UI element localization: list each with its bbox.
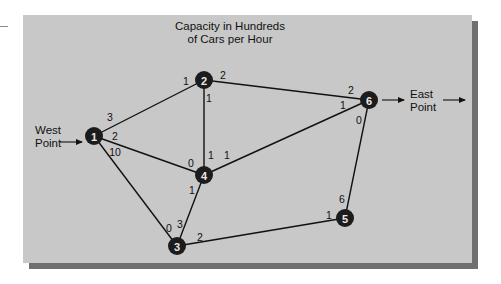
capacity-label: 0 — [188, 157, 194, 169]
capacity-label: 1 — [340, 99, 346, 111]
node-label: 3 — [174, 241, 180, 253]
capacity-label: 1 — [326, 209, 332, 221]
edge-2-6 — [204, 80, 369, 100]
capacity-label: 2 — [197, 231, 203, 243]
node-5: 5 — [336, 209, 354, 227]
capacity-label: 2 — [220, 69, 226, 81]
capacity-label: 6 — [339, 193, 345, 205]
edge-1-2 — [94, 80, 204, 136]
node-6: 6 — [360, 91, 378, 109]
node-1: 1 — [85, 127, 103, 145]
node-label: 2 — [201, 75, 207, 87]
capacity-label: 2 — [348, 84, 354, 96]
node-2: 2 — [195, 71, 213, 89]
edge-4-6 — [204, 100, 369, 175]
edges-layer — [94, 80, 369, 246]
capacity-label: 1 — [189, 184, 195, 196]
edge-1-3 — [94, 136, 177, 246]
capacity-label: 1 — [206, 92, 212, 104]
node-3: 3 — [168, 237, 186, 255]
flow-arrows — [60, 100, 465, 142]
capacity-label: 0 — [356, 114, 362, 126]
node-label: 1 — [91, 131, 97, 143]
capacity-label: 3 — [177, 218, 183, 230]
capacity-label: 1 — [183, 75, 189, 87]
node-4: 4 — [195, 166, 213, 184]
capacity-label: 3 — [107, 111, 113, 123]
capacity-label: 10 — [109, 146, 121, 158]
node-label: 6 — [366, 95, 372, 107]
capacity-label: 1 — [208, 149, 214, 161]
network-diagram: 3120100112211132106 123456 — [0, 0, 501, 284]
capacity-label: 0 — [166, 222, 172, 234]
capacity-label: 2 — [112, 130, 118, 142]
node-label: 4 — [201, 170, 208, 182]
capacity-label: 1 — [224, 149, 230, 161]
node-label: 5 — [342, 213, 348, 225]
